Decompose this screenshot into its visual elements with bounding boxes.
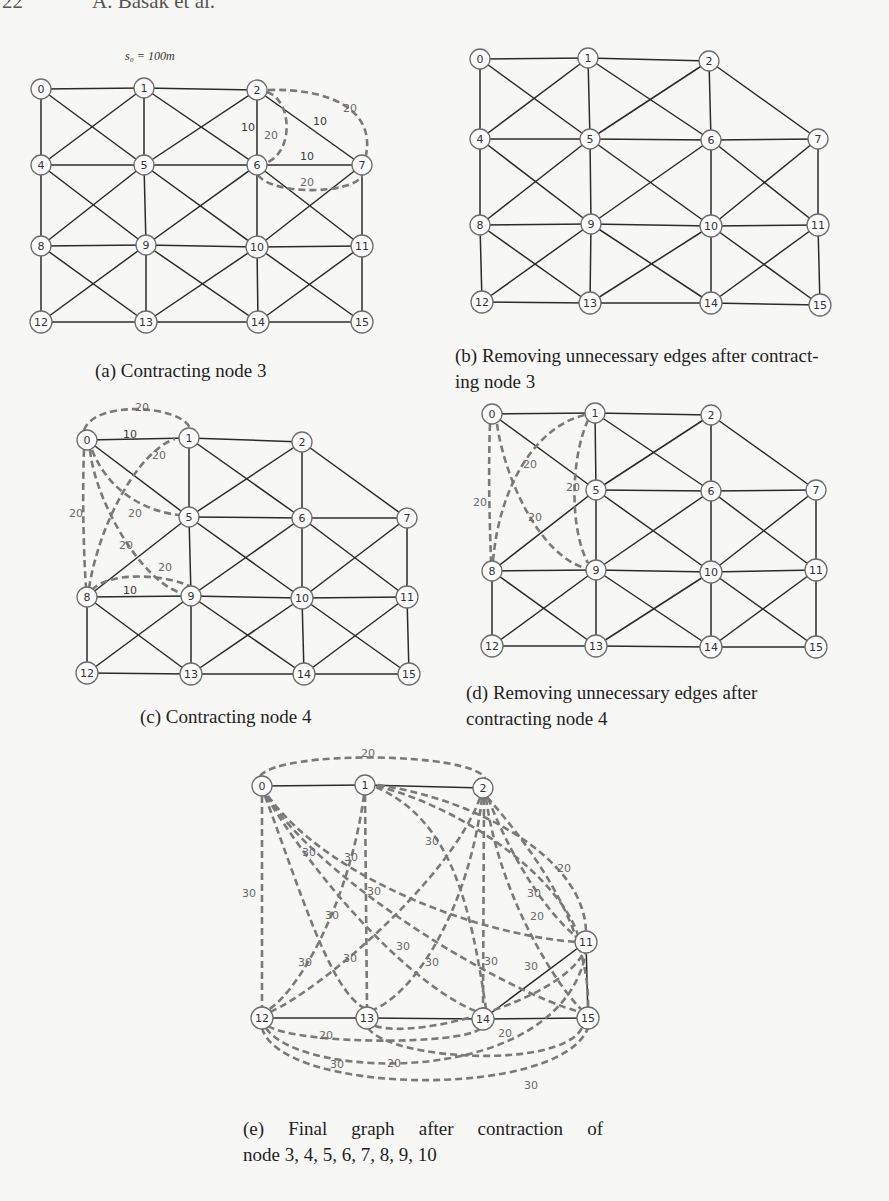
graph-node-6: 6 xyxy=(701,130,721,150)
edge-1-5 xyxy=(595,413,596,490)
svg-text:14: 14 xyxy=(251,316,265,329)
caption-b: (b) Removing unnecessary edges after con… xyxy=(455,343,875,395)
caption-e-line-1: (e) Final graph after contraction of xyxy=(243,1116,603,1142)
graph-node-1: 1 xyxy=(179,428,199,448)
graph-node-9: 9 xyxy=(136,235,156,255)
svg-text:12: 12 xyxy=(34,316,48,329)
edge-0-5 xyxy=(492,414,596,490)
graph-node-1: 1 xyxy=(578,48,598,68)
edge-weight-label: 20 xyxy=(523,458,537,471)
edge-weight-label: 30 xyxy=(484,955,498,968)
shortcut-edge xyxy=(265,796,364,1008)
graph-node-0: 0 xyxy=(470,49,490,69)
graph-node-7: 7 xyxy=(808,129,828,149)
graph-node-4: 4 xyxy=(470,129,490,149)
caption-d: (d) Removing unnecessary edges after con… xyxy=(466,680,886,732)
shortcut-edge xyxy=(268,795,364,1010)
edge-10-11 xyxy=(711,225,818,226)
caption-c: (c) Contracting node 4 xyxy=(140,704,311,730)
graph-node-1: 1 xyxy=(134,78,154,98)
edge-9-10 xyxy=(591,224,711,226)
edge-8-9 xyxy=(41,245,146,246)
edge-weight-label: 20 xyxy=(361,747,375,760)
edge-weight-label: 20 xyxy=(343,102,357,115)
graph-node-9: 9 xyxy=(581,214,601,234)
graph-node-7: 7 xyxy=(352,155,372,175)
edge-1-5 xyxy=(588,58,590,139)
svg-text:0: 0 xyxy=(38,83,45,96)
svg-text:14: 14 xyxy=(476,1013,490,1026)
graph-node-6: 6 xyxy=(247,155,267,175)
edge-weight-label: 20 xyxy=(528,511,542,524)
edge-weight-label: 20 xyxy=(69,507,83,520)
svg-text:15: 15 xyxy=(402,668,416,681)
edge-0-1 xyxy=(262,785,365,786)
graph-node-14: 14 xyxy=(700,636,722,658)
caption-e-line-2: node 3, 4, 5, 6, 7, 8, 9, 10 xyxy=(243,1142,603,1168)
svg-text:14: 14 xyxy=(704,641,718,654)
edge-0-5 xyxy=(87,440,189,517)
edge-12-13 xyxy=(482,302,590,303)
shortcut-edge xyxy=(266,952,586,1063)
svg-text:13: 13 xyxy=(589,640,603,653)
edge-weight-label: 30 xyxy=(298,956,312,969)
graph-node-7: 7 xyxy=(806,480,826,500)
svg-text:0: 0 xyxy=(84,434,91,447)
edge-5-8 xyxy=(87,517,189,597)
svg-text:6: 6 xyxy=(708,485,715,498)
svg-text:13: 13 xyxy=(184,668,198,681)
edge-10-11 xyxy=(302,597,407,598)
svg-text:7: 7 xyxy=(813,484,820,497)
edge-10-15 xyxy=(711,226,820,305)
edge-5-9 xyxy=(590,139,591,224)
edge-14-15 xyxy=(483,1018,588,1019)
graph-node-12: 12 xyxy=(481,635,503,657)
edge-weight-label: 20 xyxy=(264,129,278,142)
svg-text:11: 11 xyxy=(400,591,414,604)
svg-text:1: 1 xyxy=(362,779,369,792)
svg-text:2: 2 xyxy=(299,436,306,449)
edge-weight-label: 30 xyxy=(524,960,538,973)
edge-2-7 xyxy=(711,415,816,490)
edge-8-9 xyxy=(87,596,191,597)
panel-a-graph: 102010201020012456789101112131415 xyxy=(30,78,373,333)
edge-2-7 xyxy=(709,61,818,139)
svg-text:4: 4 xyxy=(477,133,484,146)
svg-text:5: 5 xyxy=(141,159,148,172)
graph-node-12: 12 xyxy=(30,311,52,333)
edge-5-8 xyxy=(492,490,596,571)
edge-weight-label: 10 xyxy=(300,150,314,163)
svg-text:9: 9 xyxy=(588,218,595,231)
shortcut-edge xyxy=(268,1026,480,1041)
graph-node-9: 9 xyxy=(586,560,606,580)
panel-b-graph: 012456789101112131415 xyxy=(470,48,831,316)
edge-8-13 xyxy=(87,597,191,674)
svg-text:1: 1 xyxy=(585,52,592,65)
shortcut-edge xyxy=(92,576,191,590)
graph-node-15: 15 xyxy=(805,636,827,658)
svg-text:2: 2 xyxy=(708,409,715,422)
graph-node-1: 1 xyxy=(355,775,375,795)
svg-text:9: 9 xyxy=(188,590,195,603)
svg-text:6: 6 xyxy=(708,134,715,147)
graph-node-15: 15 xyxy=(809,294,831,316)
edge-weight-label: 30 xyxy=(425,835,439,848)
shortcut-edge xyxy=(489,424,491,561)
edge-weight-label: 30 xyxy=(344,851,358,864)
edge-weight-label: 10 xyxy=(313,115,327,128)
svg-text:10: 10 xyxy=(704,220,718,233)
edge-11-15 xyxy=(818,225,820,305)
graph-node-2: 2 xyxy=(699,51,719,71)
edge-weight-label: 30 xyxy=(527,887,541,900)
svg-text:0: 0 xyxy=(477,53,484,66)
svg-text:0: 0 xyxy=(489,408,496,421)
graph-node-11: 11 xyxy=(351,235,373,257)
edge-1-2 xyxy=(588,58,709,61)
graph-node-7: 7 xyxy=(397,508,417,528)
graph-node-14: 14 xyxy=(293,663,315,685)
shortcut-edge xyxy=(260,757,485,778)
edge-9-12 xyxy=(87,596,191,673)
edge-weight-label: 20 xyxy=(158,561,172,574)
svg-text:5: 5 xyxy=(186,511,193,524)
graph-node-2: 2 xyxy=(247,80,267,100)
